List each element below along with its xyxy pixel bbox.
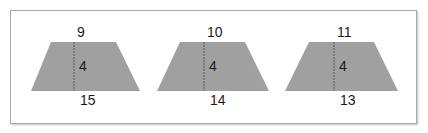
top-base-label: 11 [337, 25, 352, 39]
height-label: 4 [339, 59, 347, 73]
bottom-base-label: 14 [210, 93, 226, 107]
bottom-base-label: 13 [340, 93, 356, 107]
top-base-label: 9 [77, 25, 85, 39]
height-label: 4 [79, 59, 87, 73]
bottom-base-label: 15 [80, 93, 96, 107]
top-base-label: 10 [207, 25, 223, 39]
height-label: 4 [209, 59, 217, 73]
